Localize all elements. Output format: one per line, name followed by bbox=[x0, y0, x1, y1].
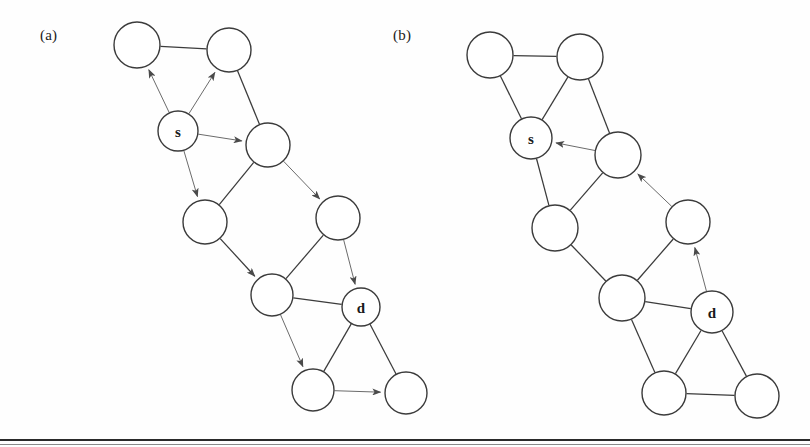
panel-label-a: (a) bbox=[40, 27, 57, 44]
directed-edge bbox=[695, 248, 707, 292]
node-d: d bbox=[342, 288, 380, 326]
node-circle bbox=[735, 374, 779, 418]
directed-edge bbox=[284, 161, 320, 199]
undirected-edge bbox=[589, 79, 610, 133]
node bbox=[642, 371, 686, 415]
node-label: d bbox=[708, 305, 717, 321]
node-circle bbox=[292, 369, 334, 411]
node bbox=[666, 200, 710, 244]
node-circle bbox=[316, 196, 360, 240]
directed-edge bbox=[556, 143, 595, 151]
node-circle bbox=[385, 372, 427, 414]
edges-layer bbox=[149, 46, 747, 395]
node bbox=[114, 22, 160, 68]
node-circle bbox=[158, 111, 198, 151]
node-circle bbox=[666, 200, 710, 244]
undirected-edge bbox=[324, 324, 351, 372]
node bbox=[183, 200, 227, 244]
undirected-edge bbox=[160, 46, 206, 49]
undirected-edge bbox=[645, 302, 691, 309]
undirected-edge bbox=[632, 319, 655, 372]
node-circle bbox=[251, 274, 293, 316]
undirected-edge bbox=[537, 159, 549, 206]
node-circle bbox=[510, 117, 552, 159]
node-label: s bbox=[175, 124, 181, 140]
nodes-layer: sdsd bbox=[114, 22, 779, 418]
undirected-edge bbox=[293, 298, 341, 305]
directed-edge bbox=[334, 391, 380, 392]
undirected-edge bbox=[722, 331, 746, 376]
undirected-edge bbox=[500, 76, 521, 119]
directed-edge bbox=[344, 240, 355, 284]
undirected-edge bbox=[686, 394, 734, 396]
undirected-edge bbox=[370, 324, 396, 374]
undirected-edge bbox=[571, 245, 606, 281]
undirected-edge bbox=[675, 331, 701, 374]
node-circle bbox=[183, 200, 227, 244]
node-circle bbox=[246, 123, 290, 167]
node bbox=[735, 374, 779, 418]
undirected-edge bbox=[513, 56, 556, 57]
node-circle bbox=[557, 34, 603, 80]
undirected-edge bbox=[570, 173, 602, 210]
directed-edge bbox=[149, 70, 169, 113]
directed-edge bbox=[281, 315, 303, 367]
undirected-edge bbox=[219, 162, 254, 204]
node bbox=[557, 34, 603, 80]
node-s: s bbox=[510, 117, 552, 159]
node bbox=[207, 28, 251, 72]
node bbox=[316, 196, 360, 240]
node bbox=[385, 372, 427, 414]
node-circle bbox=[342, 288, 380, 326]
directed-edge bbox=[220, 239, 255, 277]
footer-rule bbox=[0, 439, 810, 441]
node bbox=[251, 274, 293, 316]
node-s: s bbox=[158, 111, 198, 151]
node-circle bbox=[467, 32, 513, 78]
node bbox=[599, 275, 645, 321]
node-circle bbox=[114, 22, 160, 68]
node-d: d bbox=[691, 291, 733, 333]
node-circle bbox=[532, 205, 578, 251]
graph-diagram: sdsd bbox=[0, 0, 810, 447]
undirected-edge bbox=[286, 235, 323, 279]
figure-canvas: (a) (b) sdsd bbox=[0, 0, 810, 447]
node bbox=[246, 123, 290, 167]
node bbox=[532, 205, 578, 251]
directed-edge bbox=[198, 134, 242, 141]
undirected-edge bbox=[637, 239, 673, 280]
node bbox=[595, 132, 641, 178]
footer-rule-secondary bbox=[0, 444, 810, 445]
node-circle bbox=[642, 371, 686, 415]
panel-label-b: (b) bbox=[393, 27, 411, 44]
node-circle bbox=[599, 275, 645, 321]
node-label: s bbox=[528, 131, 534, 147]
node-label: d bbox=[357, 300, 366, 316]
directed-edge bbox=[184, 151, 198, 197]
node-circle bbox=[207, 28, 251, 72]
directed-edge bbox=[189, 72, 215, 113]
undirected-edge bbox=[542, 77, 568, 119]
undirected-edge bbox=[238, 71, 260, 124]
node bbox=[292, 369, 334, 411]
directed-edge bbox=[638, 174, 672, 206]
node-circle bbox=[595, 132, 641, 178]
node bbox=[467, 32, 513, 78]
node-circle bbox=[691, 291, 733, 333]
